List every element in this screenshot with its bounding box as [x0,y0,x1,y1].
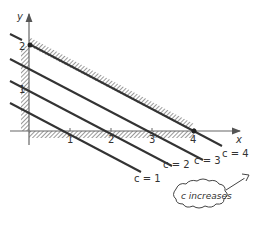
isoline-label-c4: c = 4 [222,148,249,159]
annotation-text: c increases [181,191,232,201]
axes [10,14,240,145]
isoline-label-c2: c = 2 [163,159,190,170]
isoline-label-c3: c = 3 [194,155,221,166]
vertex-4-0 [192,129,197,134]
isoline-c2 [10,81,172,166]
isoline-c4-left-dash [10,34,22,40]
y-axis-label: y [16,11,24,22]
isolines [10,34,222,172]
isoline-c3 [10,59,203,160]
lp-diagram: y x 1 2 3 4 1 2 c = 1 c = 2 c = 3 c = 4 … [0,0,259,225]
x-tick-4: 4 [190,134,196,145]
vertex-0-2 [28,43,33,48]
isoline-label-c1: c = 1 [134,173,161,184]
y-tick-2: 2 [19,41,25,52]
x-axis-label: x [235,134,242,145]
c-increases-annotation: c increases [174,174,250,208]
